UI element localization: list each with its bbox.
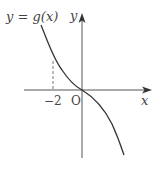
- function-label: y = g(x): [5, 9, 58, 24]
- y-axis-label: y: [69, 8, 78, 23]
- function-graph: y = g(x) y x O −2: [0, 0, 161, 169]
- x-tick-label-minus-2: −2: [44, 94, 62, 108]
- x-axis-label: x: [141, 93, 149, 108]
- origin-label: O: [71, 94, 81, 108]
